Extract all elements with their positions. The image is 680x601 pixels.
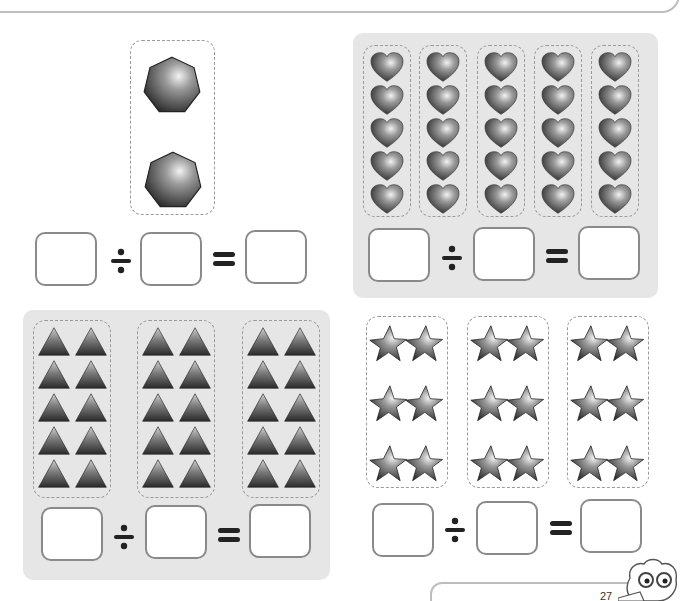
quotient-box[interactable] [578,226,640,280]
star-icon [369,325,407,363]
star-icon [470,445,508,483]
heart-icon [426,52,460,82]
equals-icon [550,513,572,543]
heart-icon [541,118,575,148]
heart-icon [598,151,632,181]
heptagon-icon [144,151,202,209]
heart-icon [426,85,460,115]
heart-icon [426,151,460,181]
triangle-group [137,320,215,498]
heart-icon [541,85,575,115]
star-icon [405,385,443,423]
heart-icon [598,118,632,148]
equals-icon [213,244,235,274]
triangle-icon [284,393,316,422]
triangle-icon [179,459,211,488]
heart-group [477,45,525,217]
triangle-icon [142,426,174,455]
triangle-group [33,320,111,498]
page-number: 27 [600,590,612,601]
heart-icon [541,184,575,214]
star-icon [570,325,608,363]
heptagon-group [130,40,215,215]
dividend-box[interactable] [372,503,434,557]
divide-icon [110,246,132,276]
triangle-icon [142,327,174,356]
star-icon [369,385,407,423]
star-icon [470,325,508,363]
heart-group [591,45,639,217]
heart-icon [484,85,518,115]
triangle-icon [142,459,174,488]
triangle-icon [179,327,211,356]
heart-icon [484,118,518,148]
quotient-box[interactable] [580,499,642,553]
triangle-icon [179,426,211,455]
star-icon [506,325,544,363]
problem-hearts [353,33,658,298]
star-icon [506,445,544,483]
dividend-box[interactable] [35,232,97,286]
heart-icon [484,151,518,181]
triangle-icon [179,360,211,389]
triangle-icon [247,360,279,389]
star-icon [606,445,644,483]
triangle-icon [284,426,316,455]
triangle-icon [75,459,107,488]
divide-icon [444,515,466,545]
heart-icon [541,52,575,82]
triangle-icon [284,360,316,389]
triangle-icon [284,459,316,488]
star-group [366,316,448,488]
equals-icon [218,520,240,550]
triangle-icon [247,393,279,422]
divisor-box[interactable] [140,232,202,286]
divisor-box[interactable] [145,505,207,559]
triangle-icon [38,360,70,389]
heart-group [419,45,467,217]
dividend-box[interactable] [368,228,430,282]
heart-group [534,45,582,217]
triangle-icon [247,459,279,488]
heart-icon [541,151,575,181]
heart-icon [598,85,632,115]
heart-icon [598,52,632,82]
heptagon-icon [143,56,201,114]
divisor-box[interactable] [473,227,535,281]
heart-icon [598,184,632,214]
star-icon [570,385,608,423]
quotient-box[interactable] [245,230,307,284]
equals-icon [546,241,568,271]
star-icon [606,325,644,363]
triangle-icon [75,426,107,455]
triangle-icon [75,360,107,389]
star-icon [606,385,644,423]
triangle-icon [75,327,107,356]
problem-triangles [23,310,330,580]
heart-icon [426,118,460,148]
heart-icon [370,118,404,148]
dividend-box[interactable] [41,507,103,561]
star-icon [506,385,544,423]
heart-icon [484,184,518,214]
star-group [567,316,649,488]
triangle-icon [38,426,70,455]
triangle-icon [247,426,279,455]
quotient-box[interactable] [249,504,311,558]
star-icon [570,445,608,483]
triangle-icon [38,327,70,356]
heart-icon [426,184,460,214]
triangle-icon [38,459,70,488]
heart-group [363,45,411,217]
triangle-icon [75,393,107,422]
heart-icon [370,52,404,82]
star-group [467,316,549,488]
triangle-icon [142,360,174,389]
heart-icon [484,52,518,82]
divisor-box[interactable] [476,501,538,555]
owl-mascot-icon [618,558,680,601]
divide-icon [113,522,135,552]
heart-icon [370,184,404,214]
triangle-group [242,320,320,498]
divide-icon [441,243,463,273]
